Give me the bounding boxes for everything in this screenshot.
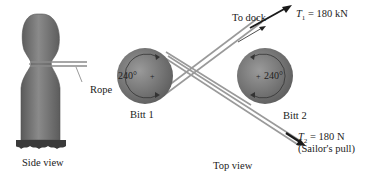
to-dock-arrow	[238, 26, 266, 42]
sailor-pull-note: (Sailor's pull)	[298, 143, 355, 154]
bitt-2-angle: 240°	[264, 70, 283, 81]
side-view-caption: Side view	[22, 157, 64, 168]
svg-text:+: +	[150, 72, 155, 81]
bitt-2-label: Bitt 2	[283, 110, 307, 121]
svg-text:+: +	[256, 72, 261, 81]
t1-label: T1 = 180 kN	[296, 8, 348, 22]
side-view-bitt	[16, 14, 87, 149]
bitt-1-label: Bitt 1	[130, 109, 154, 120]
top-view-caption: Top view	[213, 160, 252, 171]
bitt-1-angle: 240°	[118, 70, 137, 81]
to-dock-label: To dock	[232, 12, 266, 23]
rope-label: Rope	[90, 84, 112, 95]
